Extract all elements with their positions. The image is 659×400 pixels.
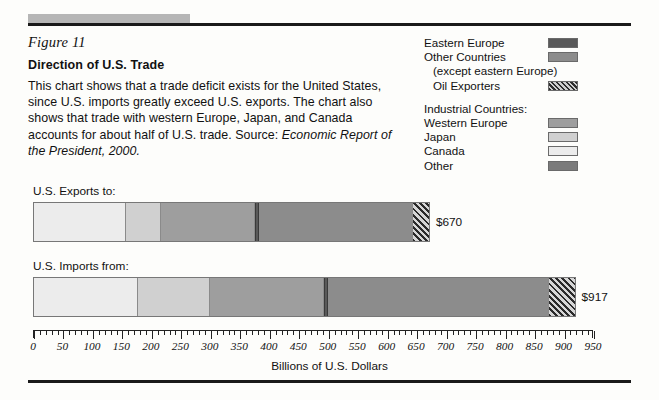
bar-segment-other-countries — [259, 203, 413, 241]
axis-tick-major — [34, 331, 35, 339]
axis-tick-minor — [128, 331, 129, 335]
axis-tick-major — [270, 331, 271, 339]
axis-tick-minor — [523, 331, 524, 335]
x-axis — [33, 330, 593, 338]
axis-tick-minor — [547, 331, 548, 335]
axis-tick-minor — [75, 331, 76, 335]
axis-tick-minor — [287, 331, 288, 335]
axis-tick-minor — [553, 331, 554, 335]
bar-segment-canada — [34, 203, 126, 241]
axis-tick-minor — [193, 331, 194, 335]
axis-tick-label: 550 — [349, 340, 366, 352]
chart-area: U.S. Exports to:$670U.S. Imports from:$9… — [0, 0, 659, 400]
axis-tick-label: 800 — [496, 340, 513, 352]
axis-tick-minor — [81, 331, 82, 335]
axis-tick-minor — [453, 331, 454, 335]
bar-segment-japan — [126, 203, 161, 241]
axis-tick-minor — [229, 331, 230, 335]
axis-tick-major — [565, 331, 566, 339]
axis-tick-minor — [217, 331, 218, 335]
axis-tick-minor — [311, 331, 312, 335]
axis-tick-major — [358, 331, 359, 339]
bar-segment-oil-exporters — [549, 278, 574, 316]
axis-tick-minor — [252, 331, 253, 335]
axis-tick-minor — [146, 331, 147, 335]
axis-tick-minor — [529, 331, 530, 335]
axis-tick-minor — [187, 331, 188, 335]
axis-tick-minor — [199, 331, 200, 335]
axis-tick-minor — [234, 331, 235, 335]
axis-tick-minor — [335, 331, 336, 335]
axis-tick-label: 50 — [57, 340, 68, 352]
axis-tick-minor — [352, 331, 353, 335]
axis-tick-minor — [317, 331, 318, 335]
axis-tick-minor — [541, 331, 542, 335]
axis-tick-minor — [470, 331, 471, 335]
axis-tick-label: 950 — [584, 340, 601, 352]
axis-tick-minor — [423, 331, 424, 335]
bar-caption-exports: U.S. Exports to: — [33, 184, 116, 198]
axis-tick-minor — [140, 331, 141, 335]
axis-tick-minor — [500, 331, 501, 335]
axis-tick-minor — [341, 331, 342, 335]
bottom-divider-rule — [28, 380, 631, 383]
axis-tick-minor — [264, 331, 265, 335]
axis-tick-major — [152, 331, 153, 339]
axis-tick-minor — [464, 331, 465, 335]
bar-segment-western-europe — [161, 203, 255, 241]
axis-tick-minor — [117, 331, 118, 335]
axis-tick-minor — [405, 331, 406, 335]
axis-tick-minor — [87, 331, 88, 335]
axis-tick-label: 100 — [83, 340, 100, 352]
bar-caption-imports: U.S. Imports from: — [33, 259, 129, 273]
axis-tick-label: 750 — [467, 340, 484, 352]
axis-tick-major — [388, 331, 389, 339]
stacked-bar-exports — [33, 202, 430, 242]
axis-tick-minor — [346, 331, 347, 335]
axis-tick-minor — [175, 331, 176, 335]
axis-tick-label: 700 — [437, 340, 454, 352]
axis-tick-major — [299, 331, 300, 339]
axis-tick-minor — [582, 331, 583, 335]
bar-total-label-imports: $917 — [582, 290, 608, 304]
axis-tick-major — [447, 331, 448, 339]
axis-tick-minor — [223, 331, 224, 335]
axis-tick-major — [211, 331, 212, 339]
axis-tick-minor — [370, 331, 371, 335]
axis-tick-minor — [576, 331, 577, 335]
bar-segment-other-countries — [328, 278, 549, 316]
axis-tick-minor — [394, 331, 395, 335]
axis-tick-label: 200 — [142, 340, 159, 352]
axis-tick-minor — [282, 331, 283, 335]
axis-tick-minor — [246, 331, 247, 335]
axis-tick-major — [329, 331, 330, 339]
axis-tick-minor — [482, 331, 483, 335]
axis-tick-label: 150 — [113, 340, 130, 352]
axis-tick-label: 500 — [319, 340, 336, 352]
axis-tick-minor — [58, 331, 59, 335]
axis-tick-minor — [588, 331, 589, 335]
axis-tick-minor — [134, 331, 135, 335]
axis-tick-minor — [99, 331, 100, 335]
axis-tick-label: 0 — [30, 340, 36, 352]
axis-tick-minor — [305, 331, 306, 335]
axis-tick-label: 900 — [555, 340, 572, 352]
bar-segment-canada — [34, 278, 138, 316]
axis-tick-label: 400 — [260, 340, 277, 352]
axis-tick-minor — [435, 331, 436, 335]
axis-tick-major — [594, 331, 595, 339]
axis-tick-label: 350 — [231, 340, 248, 352]
axis-tick-minor — [458, 331, 459, 335]
axis-tick-label: 300 — [201, 340, 218, 352]
bar-segment-western-europe — [210, 278, 324, 316]
axis-tick-minor — [111, 331, 112, 335]
axis-tick-label: 250 — [172, 340, 189, 352]
bar-total-label-exports: $670 — [436, 215, 462, 229]
stacked-bar-imports — [33, 277, 576, 317]
axis-tick-minor — [429, 331, 430, 335]
axis-tick-minor — [46, 331, 47, 335]
axis-tick-minor — [399, 331, 400, 335]
axis-tick-minor — [158, 331, 159, 335]
axis-tick-label: 650 — [408, 340, 425, 352]
axis-tick-minor — [293, 331, 294, 335]
